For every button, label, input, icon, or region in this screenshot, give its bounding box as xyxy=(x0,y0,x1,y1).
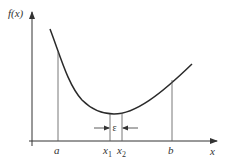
epsilon-label: ε xyxy=(113,122,117,133)
label-b: b xyxy=(168,144,174,156)
function-curve xyxy=(50,29,192,114)
y-axis-label: f(x) xyxy=(8,7,24,20)
diagram-canvas: f(x) x a b x1 x2 ε xyxy=(0,0,230,162)
label-x2: x2 xyxy=(116,144,126,159)
label-a: a xyxy=(54,144,60,156)
x-axis-label: x xyxy=(209,145,215,157)
label-x1: x1 xyxy=(102,144,112,159)
